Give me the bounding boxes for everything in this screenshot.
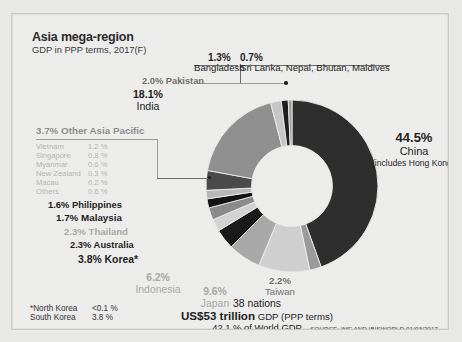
breakdown-value: 0.6 % [88,160,118,169]
label-bangladesh: 1.3% Bangladesh [194,52,245,74]
label-taiwan: 2.2% Taiwan [257,276,303,297]
breakdown-value: 0.8 % [88,151,118,160]
breakdown-name: Singapore [36,151,88,160]
page-title: Asia mega-region [32,30,134,44]
summary-total: US$53 trillion GDP (PPP terms) [162,309,352,322]
footnote-name: *North Korea [30,304,92,313]
label-thailand: 2.3% Thailand [64,227,128,238]
other-asia-pacific-rule [36,139,158,140]
label-indonesia: 6.2% Indonesia [132,272,184,295]
footnote-value: <0.1 % [92,304,118,313]
breakdown-value: 0.6 % [88,187,118,196]
breakdown-row: New Zealand0.3 % [36,169,118,178]
source-note: SOURCE: IMF AND IBISWORLD 01/03/2017 [310,325,438,330]
breakdown-name: Macau [36,178,88,187]
breakdown-row: Vietnam1.2 % [36,142,118,151]
label-pakistan: 2.0% Pakistan [142,76,204,86]
pakistan-leader-line [198,83,286,84]
label-india: 18.1% India [120,89,176,113]
breakdown-value: 1.2 % [88,142,118,151]
footnote-row: *North Korea<0.1 % [30,304,118,313]
other-asia-pacific-arm [157,178,211,179]
breakdown-name: Vietnam [36,142,88,151]
label-other-asia-pacific: 3.7% Other Asia Pacific [36,126,145,137]
other-asia-pacific-breakdown: Vietnam1.2 %Singapore0.8 %Myanmar0.6 %Ne… [36,142,118,196]
breakdown-name: Others [36,187,88,196]
donut-chart [204,98,380,274]
korea-footnote: *North Korea<0.1 %South Korea3.8 % [30,304,118,322]
label-srilanka-group: 0.7% Sri Lanka, Nepal, Bhutan, Maldives [240,52,390,74]
footnote-row: South Korea3.8 % [30,313,118,322]
other-asia-pacific-dot [208,176,211,179]
breakdown-value: 0.2 % [88,178,118,187]
label-malaysia: 1.7% Malaysia [56,213,122,224]
breakdown-row: Singapore0.8 % [36,151,118,160]
chart-frame: Asia mega-region GDP in PPP terms, 2017(… [11,13,449,330]
breakdown-name: Myanmar [36,160,88,169]
other-asia-pacific-stem [157,139,158,179]
label-china: 44.5% China (includes Hong Kong 0.9 % ) [372,131,449,168]
breakdown-name: New Zealand [36,169,88,178]
breakdown-row: Macau0.2 % [36,178,118,187]
summary-nations: 38 nations [162,298,352,309]
page-subtitle: GDP in PPP terms, 2017(F) [32,45,146,55]
breakdown-row: Others0.6 % [36,187,118,196]
breakdown-row: Myanmar0.6 % [36,160,118,169]
footnote-name: South Korea [30,313,92,322]
pie-slice-india[interactable] [207,103,282,179]
breakdown-value: 0.3 % [88,169,118,178]
label-korea: 3.8% Korea* [78,254,138,266]
label-australia: 2.3% Australia [70,240,134,251]
label-philippines: 1.6% Philippines [48,200,122,211]
footnote-value: 3.8 % [92,313,113,322]
pakistan-leader-dot [284,81,288,85]
